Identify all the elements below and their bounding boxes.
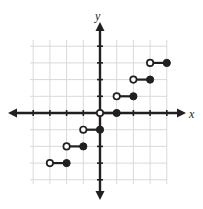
x-axis-arrow-left	[8, 109, 17, 118]
y-axis-label: y	[95, 10, 100, 22]
closed-point	[130, 93, 137, 100]
open-point	[130, 76, 136, 82]
closed-point	[96, 126, 103, 133]
y-axis-arrow-up	[96, 22, 105, 31]
closed-point	[80, 143, 87, 150]
y-axis-arrow-down	[96, 191, 105, 200]
open-point	[114, 93, 120, 99]
closed-point	[113, 109, 120, 116]
x-axis-label: x	[189, 108, 194, 120]
closed-point	[147, 76, 154, 83]
open-point	[147, 60, 153, 66]
coordinate-plane-svg	[0, 0, 203, 209]
graph-figure: y x	[0, 0, 203, 209]
open-point	[97, 110, 103, 116]
open-point	[80, 127, 86, 133]
closed-point	[63, 160, 70, 167]
open-point	[47, 160, 53, 166]
closed-point	[163, 59, 170, 66]
open-point	[63, 143, 69, 149]
x-axis-arrow-right	[177, 109, 186, 118]
